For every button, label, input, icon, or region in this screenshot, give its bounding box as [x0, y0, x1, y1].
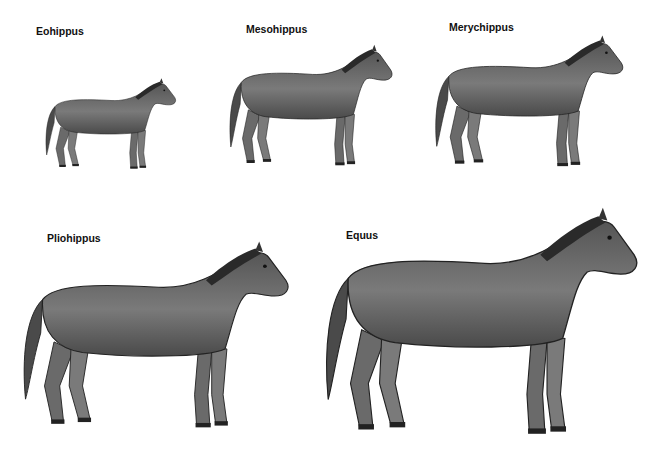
- horse-merychippus: [430, 38, 632, 168]
- label-mesohippus: Mesohippus: [246, 23, 307, 35]
- label-merychippus: Merychippus: [449, 21, 514, 33]
- horse-eohippus: [42, 80, 182, 170]
- label-eohippus: Eohippus: [36, 25, 84, 37]
- horse-pliohippus: [16, 245, 301, 430]
- label-pliohippus: Pliohippus: [47, 232, 101, 244]
- horse-equus: [317, 212, 652, 437]
- horse-mesohippus: [225, 47, 400, 167]
